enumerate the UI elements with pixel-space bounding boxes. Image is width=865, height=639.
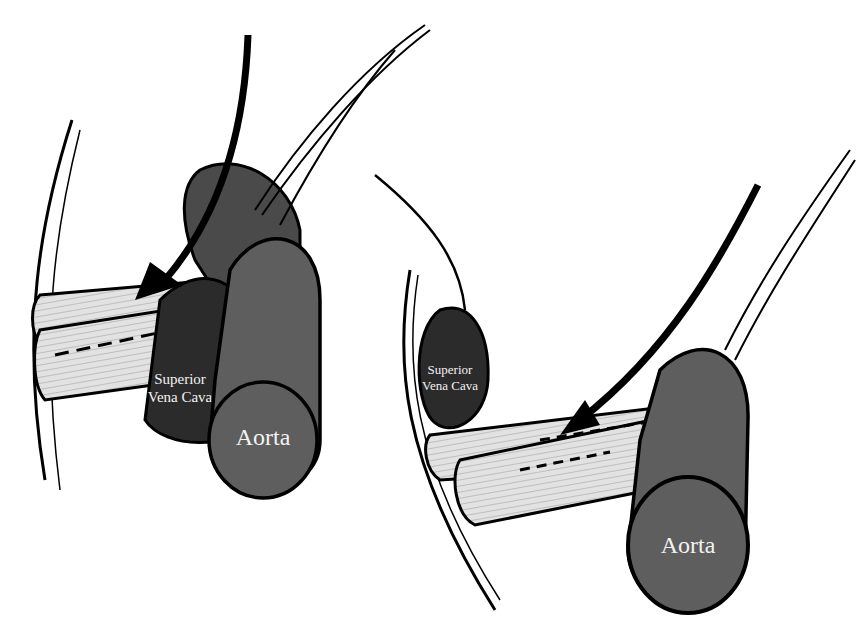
- aorta-label: Aorta: [236, 424, 291, 450]
- left-panel: Superior Vena Cava Aorta: [33, 25, 431, 498]
- anatomy-diagram: Superior Vena Cava Aorta Superior Vena C…: [0, 0, 865, 639]
- svc-label: Superior: [428, 362, 473, 377]
- pericardium-edge: [375, 175, 465, 310]
- svc-label: Vena Cava: [148, 389, 213, 405]
- svc-label: Superior: [154, 371, 206, 387]
- right-panel: Superior Vena Cava Aorta: [375, 150, 855, 613]
- svc-label: Vena Cava: [422, 378, 478, 393]
- aorta-label: Aorta: [661, 532, 716, 558]
